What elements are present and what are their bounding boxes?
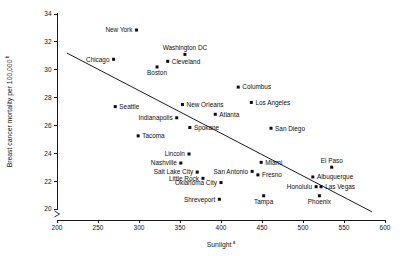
data-point-label: New York — [105, 26, 133, 33]
data-point-marker — [137, 134, 140, 137]
data-point-marker — [311, 175, 314, 178]
data-point-marker — [196, 171, 199, 174]
data-point-label: Nashville — [151, 159, 177, 166]
y-tick-label: 20 — [44, 205, 52, 212]
scatter-plot-svg: 2022242628303234200250300350400450500550… — [0, 0, 403, 256]
data-point: Washington DC — [163, 44, 208, 55]
y-axis-title: Breast cancer mortality per 100,000 b — [5, 55, 14, 167]
data-point: Chicago — [86, 56, 115, 64]
data-point-marker — [256, 173, 259, 176]
data-point-marker — [315, 185, 318, 188]
data-point: Miami — [260, 159, 283, 166]
data-point-marker — [188, 152, 191, 155]
data-point-marker — [220, 181, 223, 184]
data-point-marker — [112, 58, 115, 61]
data-point-marker — [183, 53, 186, 56]
data-point-marker — [188, 126, 191, 129]
axes-group: 2022242628303234200250300350400450500550… — [44, 10, 391, 231]
x-tick-label: 400 — [216, 224, 227, 231]
data-point: Atlanta — [214, 111, 240, 118]
data-point-label: Chicago — [86, 56, 110, 64]
data-point: Spokane — [188, 124, 219, 132]
x-tick-label: 550 — [339, 224, 350, 231]
data-point-marker — [218, 198, 221, 201]
data-point-marker — [330, 166, 333, 169]
data-point: Honolulu — [287, 183, 318, 190]
data-point-marker — [320, 185, 323, 188]
data-point-label: Cleveland — [172, 58, 201, 65]
data-point: Tacoma — [137, 132, 165, 139]
data-point-label: Los Angeles — [255, 99, 290, 107]
axis-break-mark — [55, 211, 60, 217]
data-point: Las Vegas — [320, 183, 355, 191]
data-point-label: Albuquerque — [317, 173, 354, 181]
data-point-label: Shreveport — [184, 196, 215, 204]
data-point-label: Atlanta — [219, 111, 239, 118]
data-point-label: Indianapolis — [138, 114, 172, 122]
data-point: Shreveport — [184, 196, 221, 204]
data-point: New Orleans — [181, 101, 224, 108]
data-point: San Antonio — [214, 168, 254, 175]
x-tick-label: 600 — [380, 224, 391, 231]
data-point-marker — [237, 86, 240, 89]
data-point: Tampa — [254, 194, 274, 205]
data-point-marker — [135, 29, 138, 32]
data-point-marker — [250, 101, 253, 104]
data-point: Columbus — [237, 83, 271, 90]
data-point-label: New Orleans — [187, 101, 224, 108]
data-point-label: Las Vegas — [325, 183, 355, 191]
x-tick-label: 200 — [52, 224, 63, 231]
data-point-label: Fresno — [262, 171, 282, 178]
data-point: Cleveland — [166, 58, 200, 65]
data-point-label: Miami — [265, 159, 282, 166]
data-point-label: San Diego — [275, 125, 305, 133]
data-point: Albuquerque — [311, 173, 353, 181]
data-point-label: Phoenix — [308, 198, 332, 205]
data-points-group: New YorkChicagoWashington DCClevelandBos… — [86, 26, 355, 205]
data-point-label: Seattle — [119, 103, 139, 110]
data-point-marker — [260, 161, 263, 164]
data-point-marker — [179, 162, 182, 165]
x-tick-label: 300 — [134, 224, 145, 231]
data-point-label: Columbus — [242, 83, 271, 90]
data-point-label: Spokane — [194, 124, 220, 132]
data-point-label: Tampa — [254, 198, 274, 206]
data-point: San Diego — [270, 125, 306, 133]
x-tick-label: 350 — [175, 224, 186, 231]
y-tick-label: 28 — [44, 94, 52, 101]
y-tick-label: 22 — [44, 178, 52, 185]
data-point-label: San Antonio — [214, 168, 249, 175]
y-tick-label: 26 — [44, 122, 52, 129]
x-tick-label: 500 — [298, 224, 309, 231]
data-point-marker — [114, 105, 117, 108]
data-point-label: Tacoma — [142, 132, 165, 139]
data-point: Oklahoma City — [175, 179, 223, 187]
data-point: Phoenix — [308, 194, 332, 204]
data-point-marker — [270, 127, 273, 130]
data-point-label: Washington DC — [163, 44, 208, 52]
data-point-marker — [166, 60, 169, 63]
breast-cancer-sunlight-scatter-figure: 2022242628303234200250300350400450500550… — [0, 0, 403, 256]
data-point: Nashville — [151, 159, 183, 166]
y-tick-label: 34 — [44, 10, 52, 17]
data-point-label: Lincoln — [165, 150, 186, 157]
data-point-label: Boston — [147, 69, 167, 76]
data-point: Seattle — [114, 103, 140, 110]
data-point: Boston — [147, 65, 167, 75]
data-point: Los Angeles — [250, 99, 290, 107]
x-tick-label: 250 — [93, 224, 104, 231]
data-point-marker — [175, 116, 178, 119]
data-point: New York — [105, 26, 138, 33]
data-point-marker — [214, 113, 217, 116]
data-point-marker — [181, 103, 184, 106]
data-point: El Paso — [321, 157, 343, 168]
y-tick-label: 24 — [44, 150, 52, 157]
x-tick-label: 450 — [257, 224, 268, 231]
data-point-label: Oklahoma City — [175, 179, 218, 187]
data-point-label: Honolulu — [287, 183, 313, 190]
y-tick-label: 30 — [44, 66, 52, 73]
data-point-label: El Paso — [321, 157, 343, 164]
y-tick-label: 32 — [44, 38, 52, 45]
x-axis-title: Sunlight a — [207, 240, 236, 249]
data-point: Indianapolis — [138, 114, 178, 122]
